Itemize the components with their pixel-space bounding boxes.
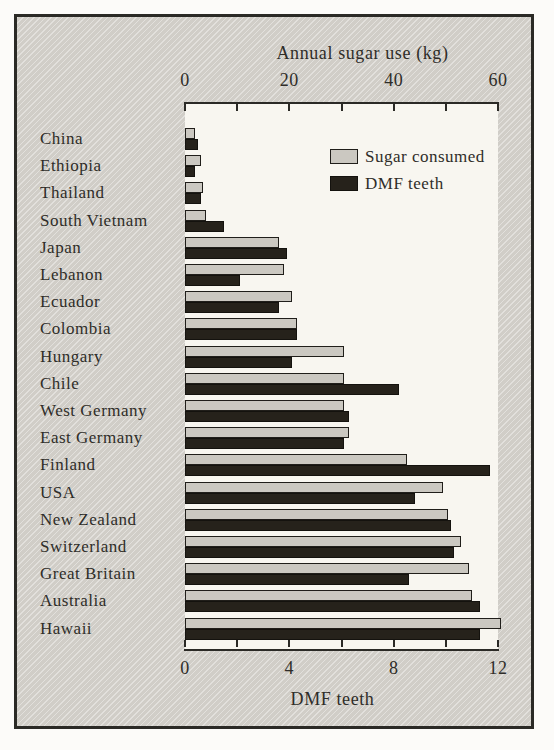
sugar-bar	[185, 182, 203, 193]
dmf-teeth-bar	[185, 574, 409, 585]
figure-page: Annual sugar use (kg) DMF teeth Sugar co…	[0, 0, 554, 750]
sugar-bar	[185, 427, 349, 438]
sugar-bar	[185, 264, 284, 275]
dmf-teeth-bar	[185, 629, 480, 640]
country-label: Switzerland	[40, 537, 182, 557]
top-axis-tick	[184, 104, 186, 111]
country-label: East Germany	[40, 428, 182, 448]
top-axis-tick-label: 40	[372, 70, 416, 90]
country-label: New Zealand	[40, 510, 182, 530]
country-label: Finland	[40, 455, 182, 475]
sugar-bar	[185, 291, 292, 302]
bottom-axis-tick	[445, 640, 447, 647]
bottom-axis-line	[184, 649, 499, 651]
sugar-bar	[185, 563, 469, 574]
country-label: Ethiopia	[40, 156, 182, 176]
dmf-teeth-bar	[185, 384, 399, 395]
dmf-teeth-bar	[185, 139, 198, 150]
dmf-teeth-bar	[185, 411, 349, 422]
country-label: Lebanon	[40, 265, 182, 285]
sugar-bar	[185, 128, 195, 139]
country-label: Hungary	[40, 347, 182, 367]
top-axis-tick-label: 20	[267, 70, 311, 90]
sugar-bar	[185, 318, 297, 329]
sugar-bar	[185, 536, 461, 547]
country-label: Ecuador	[40, 292, 182, 312]
country-label: Chile	[40, 374, 182, 394]
dmf-teeth-bar	[185, 357, 292, 368]
country-label: Great Britain	[40, 564, 182, 584]
sugar-bar	[185, 346, 344, 357]
country-label: South Vietnam	[40, 211, 182, 231]
dmf-teeth-bar	[185, 302, 279, 313]
top-axis-tick-label: 0	[163, 70, 207, 90]
top-axis-tick	[497, 104, 499, 111]
sugar-bar	[185, 237, 279, 248]
top-axis-tick	[445, 104, 447, 111]
bottom-axis-tick	[393, 640, 395, 647]
country-label: Thailand	[40, 183, 182, 203]
top-axis-tick	[236, 104, 238, 111]
bottom-axis-tick-label: 0	[163, 658, 207, 678]
bottom-axis-tick	[236, 640, 238, 647]
country-label: Hawaii	[40, 619, 182, 639]
bottom-axis-title: DMF teeth	[176, 688, 489, 710]
dmf-teeth-bar	[185, 329, 297, 340]
dmf-teeth-bar	[185, 547, 454, 558]
dmf-teeth-bar	[185, 221, 224, 232]
sugar-bar	[185, 590, 472, 601]
sugar-bar	[185, 454, 407, 465]
country-label: Colombia	[40, 319, 182, 339]
bottom-axis-tick	[497, 640, 499, 647]
bottom-axis-tick-label: 8	[372, 658, 416, 678]
dmf-teeth-bar	[185, 493, 415, 504]
sugar-bar	[185, 509, 448, 520]
sugar-bar	[185, 618, 501, 629]
top-axis-tick	[288, 104, 290, 111]
dmf-teeth-bar	[185, 465, 490, 476]
country-label: China	[40, 129, 182, 149]
country-label: West Germany	[40, 401, 182, 421]
top-axis-tick	[393, 104, 395, 111]
bottom-axis-tick	[184, 640, 186, 647]
top-axis-tick	[341, 104, 343, 111]
dmf-teeth-bar	[185, 601, 480, 612]
bottom-axis-tick	[341, 640, 343, 647]
dmf-teeth-bar	[185, 193, 201, 204]
dmf-teeth-bar	[185, 520, 451, 531]
sugar-bar	[185, 373, 344, 384]
dmf-teeth-bar	[185, 438, 344, 449]
top-axis-title: Annual sugar use (kg)	[206, 42, 519, 64]
dmf-teeth-bar	[185, 275, 240, 286]
country-label: Australia	[40, 591, 182, 611]
dmf-teeth-bar	[185, 248, 287, 259]
dmf-swatch-icon	[330, 176, 358, 191]
legend-label-sugar: Sugar consumed	[365, 147, 485, 166]
country-label: USA	[40, 483, 182, 503]
legend-label-dmf: DMF teeth	[365, 174, 444, 193]
dmf-teeth-bar	[185, 166, 195, 177]
bottom-axis-tick	[288, 640, 290, 647]
sugar-bar	[185, 155, 201, 166]
bottom-axis-tick-label: 12	[476, 658, 520, 678]
sugar-swatch-icon	[330, 149, 358, 164]
sugar-bar	[185, 400, 344, 411]
bottom-axis-tick-label: 4	[267, 658, 311, 678]
country-label: Japan	[40, 238, 182, 258]
top-axis-tick-label: 60	[476, 70, 520, 90]
sugar-bar	[185, 482, 443, 493]
sugar-bar	[185, 210, 206, 221]
